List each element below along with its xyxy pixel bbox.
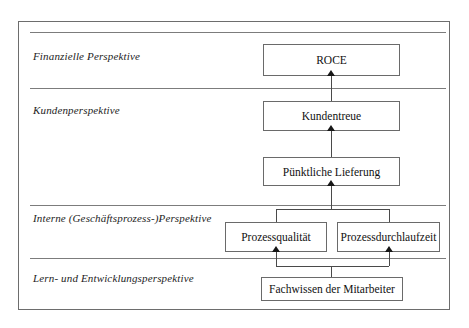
lane-label-learning: Lern- und Entwicklungsperspektive xyxy=(33,272,194,284)
connector-internal-lieferung xyxy=(331,186,332,209)
lane-label-internal: Interne (Geschäftsprozess-)Perspektive xyxy=(33,212,212,224)
arrowhead-fachwissen-durchlaufzeit xyxy=(385,246,393,252)
lane-divider-financial-customer xyxy=(30,88,446,89)
lane-divider-customer-internal xyxy=(30,205,446,206)
connector-fachwissen-qualitaet xyxy=(276,252,277,266)
arrowhead-internal-lieferung xyxy=(327,180,335,186)
connector-durchlaufzeit-riser xyxy=(389,209,390,222)
connector-kundentreue-roce xyxy=(331,76,332,102)
arrowhead-kundentreue-roce xyxy=(327,70,335,76)
connector-fachwissen-durchlaufzeit xyxy=(389,252,390,266)
arrowhead-lieferung-kundentreue xyxy=(327,125,335,131)
connector-fachwissen-stem xyxy=(331,266,332,277)
lane-label-customer: Kundenperspektive xyxy=(33,104,120,116)
lane-label-financial: Finanzielle Perspektive xyxy=(33,50,140,62)
connector-lieferung-kundentreue xyxy=(331,131,332,157)
lane-divider-internal-learning xyxy=(30,258,446,259)
connector-learning-split-bar xyxy=(276,266,389,267)
connector-internal-join-bar xyxy=(276,209,389,210)
node-fachwissen-der-mitarbeiter[interactable]: Fachwissen der Mitarbeiter xyxy=(261,277,403,301)
lane-divider-top xyxy=(30,32,446,33)
arrowhead-fachwissen-qualitaet xyxy=(272,246,280,252)
diagram-canvas: Finanzielle Perspektive Kundenperspektiv… xyxy=(0,0,469,328)
connector-qualitaet-riser xyxy=(276,209,277,222)
